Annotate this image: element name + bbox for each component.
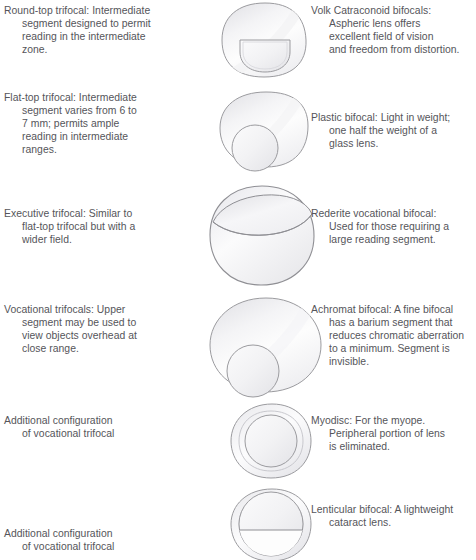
- lens-2-flat-top-trifocal: [220, 92, 308, 171]
- caption-left-flat-top-trifocal: Flat-top trifocal: Intermediate segment …: [4, 91, 222, 156]
- caption-right-myodisc: Myodisc: For the myope. Peripheral porti…: [311, 414, 476, 453]
- lens-6-lenticular-bifocal: [231, 489, 311, 560]
- caption-right-plastic-bifocal: Plastic bifocal: Light in weight; one ha…: [311, 111, 476, 150]
- lens-3-executive-trifocal: [210, 186, 314, 285]
- lens-5-myodisc: [231, 404, 311, 478]
- lens-1-round-top-trifocal: [222, 3, 306, 77]
- caption-left-additional-config-2: Additional configuration of vocational t…: [4, 527, 222, 553]
- caption-left-additional-config-1: Additional configuration of vocational t…: [4, 414, 222, 440]
- caption-right-volk-catraconoid: Volk Catraconoid bifocals: Aspheric lens…: [311, 4, 476, 56]
- caption-left-executive-trifocal: Executive trifocal: Similar to flat-top …: [4, 207, 222, 246]
- figure-sheet: Round-top trifocal: Intermediate segment…: [0, 0, 476, 560]
- lens-illustrations: [0, 0, 476, 560]
- caption-right-rederite-bifocal: Rederite vocational bifocal: Used for th…: [311, 207, 476, 246]
- caption-right-lenticular-bifocal: Lenticular bifocal: A lightweight catara…: [311, 503, 476, 529]
- caption-right-achromat-bifocal: Achromat bifocal: A fine bifocal has a b…: [311, 303, 476, 368]
- caption-left-round-top-trifocal: Round-top trifocal: Intermediate segment…: [4, 4, 222, 56]
- lens-4-vocational-trifocal: [210, 298, 321, 397]
- caption-left-vocational-trifocals: Vocational trifocals: Upper segment may …: [4, 303, 222, 355]
